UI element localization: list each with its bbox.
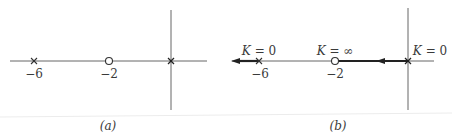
arrow-left-icon: [231, 58, 240, 64]
gain-label-zero: K = ∞: [316, 44, 354, 58]
tick-label-neg6: −6: [25, 67, 43, 81]
tick-label-neg2: −2: [100, 67, 118, 81]
panel-caption: (b): [329, 119, 346, 133]
tick-label-neg6: −6: [251, 67, 269, 81]
gain-label-origin: K = 0: [412, 44, 447, 58]
root-locus-figure: −6 −2 (a) K = 0 K = ∞ K = 0 −6: [0, 0, 452, 140]
zero-circle-icon: [106, 58, 113, 65]
zero-circle-icon: [332, 58, 339, 65]
divider: [0, 113, 452, 117]
arrow-left-icon: [376, 58, 385, 64]
gain-label-pole-neg6: K = 0: [241, 44, 276, 58]
tick-label-neg2: −2: [326, 67, 344, 81]
panel-caption: (a): [100, 119, 117, 133]
panel-a: −6 −2 (a): [10, 10, 207, 133]
